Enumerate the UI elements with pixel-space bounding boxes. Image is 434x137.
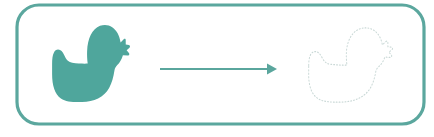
worksheet-canvas: shape tracing xyxy=(0,0,434,137)
duck-matching-illustration xyxy=(0,0,434,137)
